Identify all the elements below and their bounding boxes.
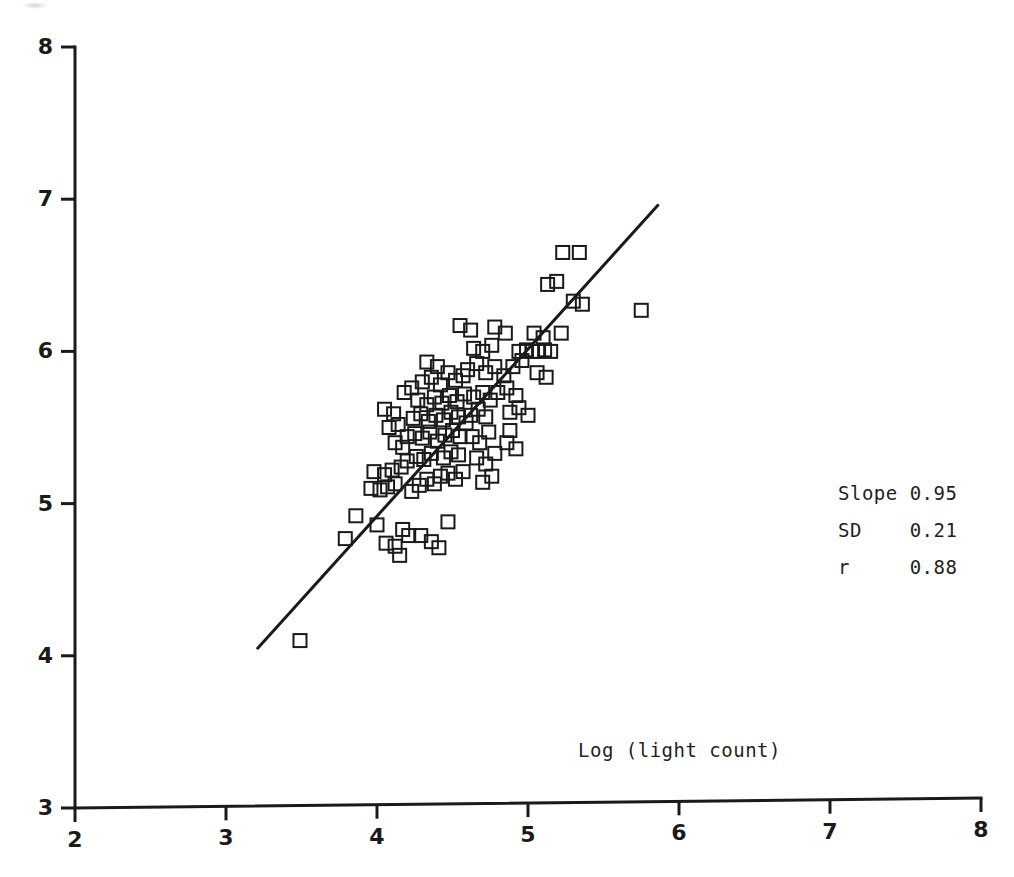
- y-tick-label-4: 4: [38, 645, 53, 667]
- data-point: [452, 448, 465, 461]
- x-tick-label-2: 2: [67, 829, 82, 851]
- data-point: [500, 381, 513, 394]
- plot-canvas: [0, 0, 1014, 877]
- data-point: [531, 366, 544, 379]
- axis-layer: [61, 47, 981, 822]
- data-point: [467, 391, 480, 404]
- data-point: [378, 403, 391, 416]
- data-point: [383, 421, 396, 434]
- y-tick-label-6: 6: [38, 340, 53, 362]
- scatter-plot-figure: 2345678 345678 Log (light count) Slope 0…: [0, 0, 1014, 877]
- data-point: [541, 278, 554, 291]
- x-axis-title: Log (light count): [578, 741, 781, 760]
- data-point: [410, 450, 423, 463]
- data-point: [512, 401, 525, 414]
- x-tick-label-7: 7: [822, 821, 837, 843]
- data-point: [349, 509, 362, 522]
- x-tick-label-5: 5: [520, 824, 535, 846]
- data-point: [635, 304, 648, 317]
- data-point: [411, 394, 424, 407]
- data-point: [380, 537, 393, 550]
- regression-line: [258, 205, 658, 648]
- data-point: [458, 388, 471, 401]
- regression-line-layer: [258, 205, 658, 648]
- data-point: [389, 436, 402, 449]
- data-point: [509, 389, 522, 402]
- x-tick-label-4: 4: [369, 826, 384, 848]
- y-tick-label-7: 7: [38, 188, 53, 210]
- data-point: [393, 549, 406, 562]
- data-point: [573, 246, 586, 259]
- data-point: [386, 464, 399, 477]
- data-point: [467, 342, 480, 355]
- data-point: [389, 540, 402, 553]
- data-point: [479, 410, 492, 423]
- data-point: [408, 427, 421, 440]
- data-point: [522, 409, 535, 422]
- stat-slope: Slope 0.95: [838, 482, 957, 504]
- y-tick-label-8: 8: [38, 36, 53, 58]
- data-point: [381, 480, 394, 493]
- data-point: [503, 424, 516, 437]
- data-point: [555, 327, 568, 340]
- data-point: [339, 532, 352, 545]
- data-point: [457, 465, 470, 478]
- data-point: [576, 298, 589, 311]
- x-tick-label-6: 6: [671, 822, 686, 844]
- x-tick-label-3: 3: [218, 827, 233, 849]
- data-point: [550, 275, 563, 288]
- data-points-layer: [293, 246, 647, 647]
- x-tick-label-8: 8: [973, 819, 988, 841]
- y-tick-label-5: 5: [38, 493, 53, 515]
- stat-sd: SD 0.21: [838, 519, 957, 541]
- stat-r: r 0.88: [838, 556, 957, 578]
- data-point: [540, 371, 553, 384]
- data-point: [503, 406, 516, 419]
- data-point: [441, 515, 454, 528]
- y-tick-label-3: 3: [38, 797, 53, 819]
- data-point: [398, 386, 411, 399]
- data-point: [449, 374, 462, 387]
- data-point: [556, 246, 569, 259]
- data-point: [407, 412, 420, 425]
- statistics-annotation-block: Slope 0.95 SD 0.21 r 0.88: [838, 482, 957, 593]
- data-point: [293, 634, 306, 647]
